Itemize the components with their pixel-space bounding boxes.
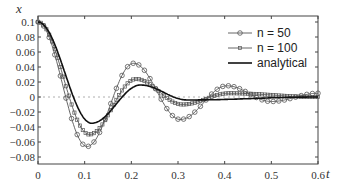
x-tick-label: 0.5 <box>264 169 278 181</box>
y-axis-label: x <box>15 1 22 16</box>
y-tick-label: 0 <box>30 91 36 103</box>
y-tick-label: 0.04 <box>16 61 36 73</box>
legend-label: n = 50 <box>257 26 291 40</box>
legend-label: analytical <box>257 56 307 70</box>
legend-label: n = 100 <box>257 41 298 55</box>
x-axis-label: t <box>326 166 330 181</box>
y-tick-label: 0.1 <box>21 16 35 28</box>
x-tick-label: 0.3 <box>171 169 185 181</box>
y-tick-label: −0.04 <box>10 121 36 133</box>
x-tick-label: 0 <box>35 169 41 181</box>
legend: n = 50n = 100analytical <box>228 26 307 70</box>
x-tick-label: 0.2 <box>124 169 138 181</box>
chart: 00.10.20.30.40.50.60.10.080.060.040.020−… <box>0 0 338 191</box>
y-tick-label: 0.08 <box>16 31 36 43</box>
x-tick-label: 0.6 <box>311 169 325 181</box>
y-tick-label: −0.08 <box>10 151 36 163</box>
x-tick-label: 0.4 <box>218 169 232 181</box>
y-tick-label: −0.06 <box>10 136 36 148</box>
y-tick-label: 0.06 <box>16 46 36 58</box>
y-tick-label: 0.02 <box>16 76 35 88</box>
y-tick-label: −0.02 <box>10 106 35 118</box>
x-tick-label: 0.1 <box>78 169 92 181</box>
